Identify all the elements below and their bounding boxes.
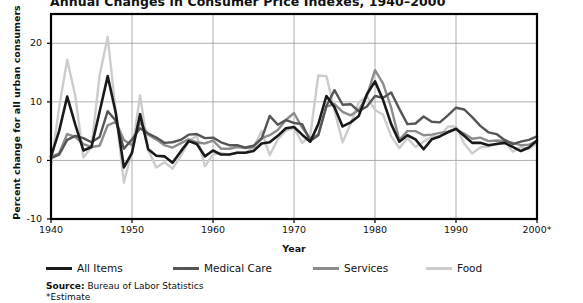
x-axis-label: Year — [50, 243, 538, 254]
chart-legend: All ItemsMedical CareServicesFood — [46, 260, 546, 276]
footnotes: Source: Bureau of Labor Statistics *Esti… — [46, 281, 203, 303]
x-tick-label: 1950 — [102, 224, 162, 235]
legend-swatch-icon — [173, 267, 199, 270]
legend-swatch-icon — [426, 267, 452, 270]
y-tick-label: 10 — [8, 96, 42, 107]
x-tick-label: 1990 — [426, 224, 486, 235]
legend-swatch-icon — [313, 267, 339, 270]
legend-label: Medical Care — [204, 262, 272, 274]
y-tick-label: 0 — [8, 154, 42, 165]
legend-label: Services — [344, 262, 388, 274]
x-tick-label: 1970 — [264, 224, 324, 235]
chart-figure: Annual Changes in Consumer Price Indexes… — [0, 0, 583, 303]
x-tick-label: 1980 — [345, 224, 405, 235]
source-label: Source: — [46, 281, 85, 291]
gridlines — [51, 14, 537, 219]
x-tick-label: 1960 — [183, 224, 243, 235]
legend-item-services[interactable]: Services — [313, 260, 388, 276]
legend-label: Food — [457, 262, 482, 274]
x-tick-label: 1940 — [21, 224, 81, 235]
source-line: Source: Bureau of Labor Statistics — [46, 281, 203, 292]
legend-swatch-icon — [46, 267, 72, 270]
estimate-note: *Estimate — [46, 292, 203, 303]
legend-label: All Items — [77, 262, 123, 274]
y-tick-label: -10 — [8, 213, 42, 224]
legend-item-food[interactable]: Food — [426, 260, 482, 276]
plot-area — [0, 0, 583, 303]
y-tick-label: 20 — [8, 37, 42, 48]
legend-item-medical-care[interactable]: Medical Care — [173, 260, 272, 276]
source-text: Bureau of Labor Statistics — [85, 281, 204, 291]
legend-item-all-items[interactable]: All Items — [46, 260, 123, 276]
x-tick-label: 2000* — [507, 224, 567, 235]
